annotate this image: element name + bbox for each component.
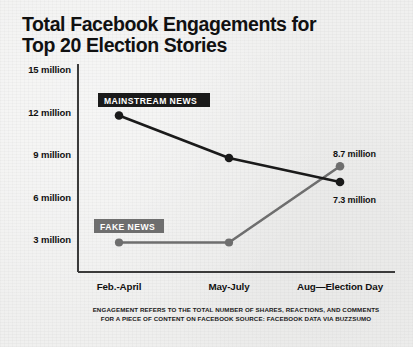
mainstream-news-point	[115, 111, 124, 120]
chart-plot-area: 15 million 12 million 9 million 6 millio…	[0, 0, 413, 347]
y-tick-label: 9 million	[33, 149, 71, 160]
footnote-line-1: ENGAGEMENT REFERS TO THE TOTAL NUMBER OF…	[78, 306, 394, 315]
series-mainstream-news	[115, 111, 345, 186]
fake-news-point	[336, 162, 345, 171]
y-tick-label: 15 million	[28, 64, 71, 75]
x-tick-label: Aug—Election Day	[297, 281, 384, 292]
legend-badge-fake-news[interactable]: FAKE NEWS	[94, 219, 164, 233]
value-label-fake-news: 8.7 million	[333, 149, 376, 159]
value-label-mainstream-news: 7.3 million	[333, 195, 376, 205]
footnote-line-2: FOR A PIECE OF CONTENT ON FACEBOOK SOURC…	[78, 315, 394, 324]
x-tick-label: Feb.-April	[97, 281, 142, 292]
legend-badge-mainstream-news[interactable]: MAINSTREAM NEWS	[98, 93, 210, 107]
fake-badge-label: FAKE NEWS	[100, 222, 155, 232]
x-axis-tick-labels: Feb.-April May-July Aug—Election Day	[97, 281, 384, 292]
mainstream-badge-label: MAINSTREAM NEWS	[104, 96, 197, 106]
y-tick-label: 12 million	[28, 107, 71, 118]
x-tick-label: May-July	[208, 281, 250, 292]
y-axis-tick-labels: 15 million 12 million 9 million 6 millio…	[28, 64, 71, 245]
y-tick-label: 6 million	[33, 192, 71, 203]
mainstream-news-point	[336, 178, 345, 187]
mainstream-news-point	[225, 154, 234, 163]
line-chart-svg: 15 million 12 million 9 million 6 millio…	[0, 0, 413, 347]
mainstream-news-line	[119, 116, 340, 183]
fake-news-point	[225, 238, 233, 246]
chart-footnote: ENGAGEMENT REFERS TO THE TOTAL NUMBER OF…	[78, 306, 394, 323]
y-tick-label: 3 million	[33, 234, 71, 245]
fake-news-point	[115, 238, 123, 246]
chart-card: Total Facebook Engagements for Top 20 El…	[0, 0, 413, 347]
